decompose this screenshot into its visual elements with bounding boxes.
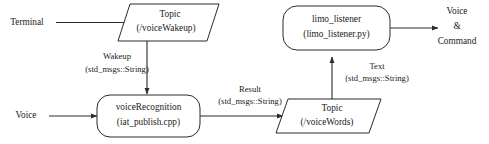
external-label-terminal: Terminal (10, 17, 44, 27)
node-topic-voicewords[interactable]: Topic (/voiceWords) (276, 99, 381, 133)
node-limolistener-line1: limo_listener (312, 14, 362, 24)
node-topic-voicewakeup-line1: Topic (159, 9, 180, 19)
edge-label-wakeup-line1: Wakeup (103, 51, 131, 61)
external-label-output-line3: Command (438, 36, 477, 46)
node-voicerecognition-line2: (iat_publish.cpp) (117, 117, 180, 128)
node-limolistener[interactable]: limo_listener (limo_listener.py) (283, 6, 390, 50)
edge-label-wakeup-line2: (std_msgs::String) (85, 64, 149, 74)
node-limolistener-shape[interactable] (283, 6, 390, 50)
edge-voicerecognition-to-voicewords: Result (std_msgs::String) (200, 84, 283, 116)
node-topic-voicewakeup-line2: (/voiceWakeup) (136, 23, 195, 34)
edge-voicewakeup-to-voicerecognition: Wakeup (std_msgs::String) (85, 41, 149, 94)
external-label-output-line2: & (453, 21, 461, 31)
external-label-output-line1: Voice (447, 6, 468, 16)
diagram-canvas: Wakeup (std_msgs::String) Result (std_ms… (0, 0, 489, 144)
node-topic-voicewords-line1: Topic (321, 103, 342, 113)
edge-voicewords-to-limolistener: Text (std_msgs::String) (332, 57, 409, 99)
edge-label-result-line2: (std_msgs::String) (218, 96, 282, 106)
node-topic-voicewords-line2: (/voiceWords) (301, 117, 354, 128)
edge-label-text-line2: (std_msgs::String) (345, 73, 409, 83)
external-label-voice-input: Voice (16, 110, 37, 120)
edge-label-text-line1: Text (369, 61, 385, 71)
node-voicerecognition[interactable]: voiceRecognition (iat_publish.cpp) (97, 95, 200, 137)
dataflow-diagram: Wakeup (std_msgs::String) Result (std_ms… (0, 0, 489, 144)
node-topic-voicewakeup[interactable]: Topic (/voiceWakeup) (118, 4, 219, 41)
node-voicerecognition-line1: voiceRecognition (116, 102, 182, 112)
external-label-output: Voice & Command (438, 6, 477, 46)
edge-label-result-line1: Result (239, 84, 262, 94)
node-limolistener-line2: (limo_listener.py) (303, 29, 369, 40)
